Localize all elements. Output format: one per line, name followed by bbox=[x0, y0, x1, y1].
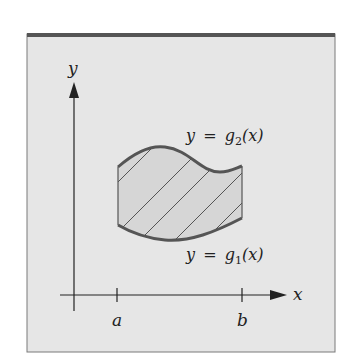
tick-label-b: b bbox=[237, 310, 248, 330]
tick-label-a: a bbox=[112, 310, 122, 330]
frame-top-border bbox=[27, 33, 335, 37]
label-g2: y = g2(x) bbox=[185, 126, 263, 148]
x-axis-label: x bbox=[293, 284, 303, 304]
label-g1: y = g1(x) bbox=[185, 245, 263, 267]
y-axis-label: y bbox=[67, 58, 78, 78]
region-diagram: y x a b y = g2(x) y = g1(x) bbox=[0, 0, 364, 357]
